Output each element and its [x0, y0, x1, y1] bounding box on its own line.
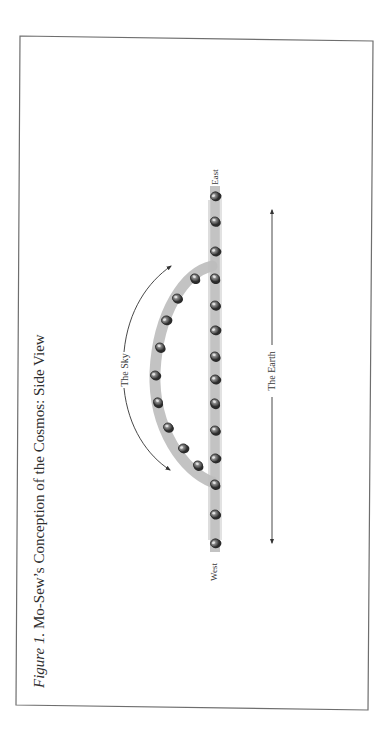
figure-caption: Figure 1. Mo-Sew’s Conception of the Cos… [31, 334, 47, 689]
caption-prefix: Figure 1. [31, 633, 47, 689]
sky-label: The Sky [119, 353, 130, 387]
earth-band [208, 186, 222, 552]
caption-text: Mo-Sew’s Conception of the Cosmos: Side … [31, 334, 47, 633]
west-label: West [209, 563, 219, 581]
figure-canvas: The Sky The Earth East West Figure 1. Mo… [0, 0, 392, 745]
earth-label: The Earth [266, 351, 277, 391]
east-label: East [210, 169, 220, 185]
figure-frame [16, 36, 373, 710]
